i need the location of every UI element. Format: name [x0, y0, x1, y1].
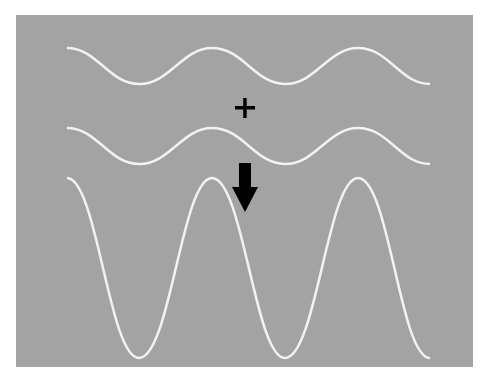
wave-1	[67, 48, 430, 84]
down-arrow-icon	[232, 163, 258, 212]
superposition-diagram	[0, 0, 486, 378]
plus-icon	[235, 98, 255, 118]
wave-2	[67, 128, 430, 164]
